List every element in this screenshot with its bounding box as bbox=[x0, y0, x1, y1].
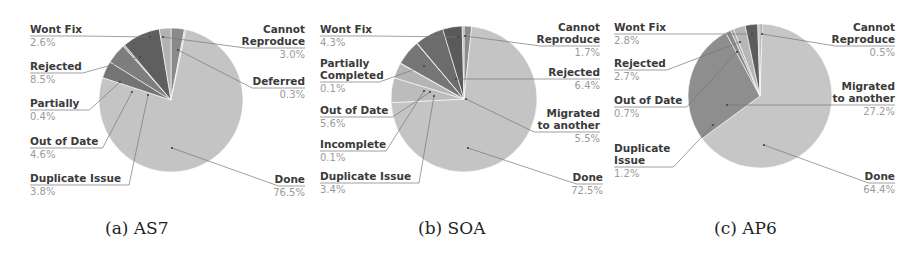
label-done: Done76.5% bbox=[171, 147, 305, 198]
label-done: Done64.4% bbox=[763, 144, 895, 195]
label-name: Cannot bbox=[558, 21, 600, 33]
label-percent: 3.0% bbox=[280, 49, 305, 60]
label-percent: 5.6% bbox=[320, 118, 345, 129]
label-percent: 5.5% bbox=[575, 133, 600, 144]
label-percent: 0.4% bbox=[30, 111, 55, 122]
label-percent: 27.2% bbox=[863, 106, 895, 117]
label-name: Rejected bbox=[614, 57, 666, 69]
label-percent: 0.7% bbox=[614, 108, 639, 119]
leader-dot bbox=[763, 144, 765, 146]
leader-dot bbox=[162, 36, 164, 38]
label-percent: 72.5% bbox=[571, 185, 603, 196]
label-name: Out of Date bbox=[30, 135, 98, 147]
label-percent: 3.4% bbox=[320, 184, 345, 195]
label-name: to another bbox=[538, 119, 601, 131]
leader-dot bbox=[119, 81, 121, 83]
label-name: Completed bbox=[320, 69, 384, 81]
leader-dot bbox=[712, 124, 714, 126]
label-name: Rejected bbox=[30, 60, 82, 72]
label-name: Wont Fix bbox=[320, 23, 372, 35]
label-percent: 3.8% bbox=[30, 186, 55, 197]
leader-dot bbox=[726, 104, 728, 106]
label-name: Duplicate Issue bbox=[320, 170, 411, 182]
leader-dot bbox=[464, 35, 466, 37]
label-name: Reproduce bbox=[537, 33, 600, 45]
pie-charts: Wont Fix2.6%Rejected8.5%Partially0.4%Out… bbox=[0, 0, 924, 205]
label-percent: 6.4% bbox=[575, 80, 600, 91]
label-name: Reproduce bbox=[832, 33, 895, 45]
label-percent: 0.1% bbox=[320, 152, 345, 163]
leader-dot bbox=[423, 90, 425, 92]
label-name: Migrated bbox=[842, 80, 895, 92]
caption-as7: (a) AS7 bbox=[105, 218, 169, 238]
caption-ap6: (c) AP6 bbox=[714, 218, 777, 238]
label-percent: 0.3% bbox=[280, 89, 305, 100]
label-name: Done bbox=[864, 170, 895, 182]
leader-dot bbox=[751, 33, 753, 35]
label-percent: 2.6% bbox=[30, 37, 55, 48]
leader-dot bbox=[433, 95, 435, 97]
label-name: to another bbox=[833, 92, 896, 104]
label-name: Duplicate Issue bbox=[30, 172, 121, 184]
label-percent: 64.4% bbox=[863, 184, 895, 195]
caption-soa: (b) SOA bbox=[418, 218, 485, 238]
label-percent: 2.7% bbox=[614, 71, 639, 82]
label-percent: 76.5% bbox=[273, 187, 305, 198]
leader-dot bbox=[131, 91, 133, 93]
pie-a-as7: Wont Fix2.6%Rejected8.5%Partially0.4%Out… bbox=[30, 23, 305, 198]
label-name: Migrated bbox=[547, 107, 600, 119]
label-name: Partially bbox=[320, 57, 370, 69]
label-name: Issue bbox=[614, 154, 645, 166]
label-name: Partially bbox=[30, 97, 80, 109]
leader-dot bbox=[465, 98, 467, 100]
label-name: Cannot bbox=[853, 21, 895, 33]
label-done: Done72.5% bbox=[467, 147, 603, 196]
label-name: Out of Date bbox=[614, 94, 682, 106]
label-name: Incomplete bbox=[320, 138, 386, 150]
figure: Wont Fix2.6%Rejected8.5%Partially0.4%Out… bbox=[0, 0, 924, 268]
label-percent: 1.2% bbox=[614, 168, 639, 179]
label-name: Rejected bbox=[548, 66, 600, 78]
leader-dot bbox=[423, 65, 425, 67]
leader-dot bbox=[149, 36, 151, 38]
leader-dot bbox=[139, 56, 141, 58]
leader-dot bbox=[467, 147, 469, 149]
label-name: Done bbox=[274, 173, 305, 185]
label-name: Wont Fix bbox=[614, 21, 666, 33]
label-name: Deferred bbox=[252, 75, 305, 87]
leader-dot bbox=[736, 51, 738, 53]
label-name: Out of Date bbox=[320, 104, 388, 116]
label-percent: 0.1% bbox=[320, 83, 345, 94]
label-percent: 1.7% bbox=[575, 47, 600, 58]
label-name: Done bbox=[572, 171, 603, 183]
label-percent: 8.5% bbox=[30, 74, 55, 85]
leader-dot bbox=[147, 94, 149, 96]
label-name: Duplicate bbox=[614, 142, 670, 154]
leader-dot bbox=[455, 78, 457, 80]
label-percent: 4.3% bbox=[320, 37, 345, 48]
label-name: Reproduce bbox=[242, 35, 305, 47]
leader-dot bbox=[761, 33, 763, 35]
leader-dot bbox=[429, 91, 431, 93]
label-name: Wont Fix bbox=[30, 23, 82, 35]
leader-dot bbox=[739, 41, 741, 43]
pie-c-ap6: Wont Fix2.8%Rejected2.7%Out of Date0.7%D… bbox=[614, 21, 896, 195]
label-name: Cannot bbox=[263, 23, 305, 35]
leader-dot bbox=[457, 36, 459, 38]
label-percent: 2.8% bbox=[614, 35, 639, 46]
leader-dot bbox=[177, 49, 179, 51]
label-percent: 0.5% bbox=[870, 47, 895, 58]
label-percent: 4.6% bbox=[30, 149, 55, 160]
leader-dot bbox=[171, 147, 173, 149]
pie-b-soa: Wont Fix4.3%PartiallyCompleted0.1%Out of… bbox=[320, 21, 603, 196]
